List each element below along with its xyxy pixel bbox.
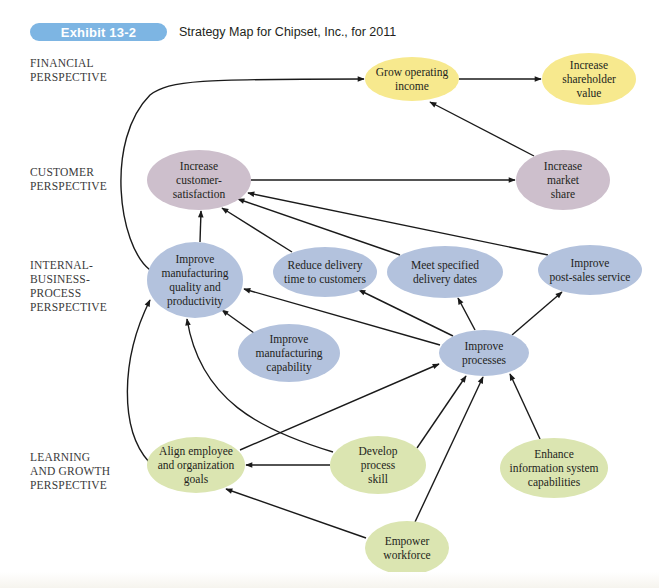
node-label-line: Align employee	[159, 445, 233, 458]
arrow-improve-manufacturing-capability-to-improve-manufacturing-quality	[222, 310, 254, 333]
node-label-line: workforce	[383, 549, 430, 561]
node-label-line: process	[361, 459, 396, 472]
node-label-line: Improve	[571, 257, 610, 270]
arrow-improve-post-sales-service-to-increase-customer-satisfaction	[248, 193, 548, 255]
node-improve-processes: Improveprocesses	[439, 330, 529, 376]
node-label-line: Improve	[465, 340, 504, 353]
node-label-line: Increase	[180, 160, 218, 172]
node-label-line: Empower	[385, 535, 430, 548]
node-label-line: Develop	[359, 445, 398, 458]
node-label-line: Increase	[570, 59, 608, 71]
node-align-employee-goals: Align employeeand organizationgoals	[147, 437, 245, 493]
node-label-line: skill	[368, 473, 388, 485]
arrow-empower-workforce-to-improve-processes	[415, 377, 483, 522]
arrow-improve-processes-to-meet-delivery-dates	[458, 298, 475, 330]
node-label-line: goals	[184, 473, 209, 486]
node-ellipse	[273, 247, 377, 297]
node-label-line: productivity	[167, 295, 223, 308]
node-label-line: processes	[462, 354, 507, 367]
node-empower-workforce: Empowerworkforce	[365, 521, 449, 575]
node-label-line: capabilities	[528, 476, 581, 489]
node-improve-manufacturing-capability: Improvemanufacturingcapability	[238, 324, 340, 382]
arrow-improve-manufacturing-quality-to-increase-customer-satisfaction	[200, 211, 201, 242]
node-label-line: value	[577, 87, 602, 99]
node-label-line: manufacturing	[161, 267, 228, 280]
node-label-line: quality and	[169, 281, 221, 294]
node-label-line: Enhance	[534, 448, 574, 460]
node-label-line: Reduce delivery	[287, 259, 362, 272]
node-label-line: time to customers	[284, 273, 366, 285]
node-label-line: customer-	[176, 174, 222, 186]
node-label-line: delivery dates	[413, 273, 478, 286]
arrow-increase-market-share-to-grow-operating-income	[430, 102, 534, 156]
node-ellipse	[538, 245, 642, 295]
strategy-map-diagram: Grow operatingincomeIncreaseshareholderv…	[0, 0, 659, 588]
node-increase-market-share: Increasemarketshare	[516, 150, 610, 210]
node-label-line: Improve	[176, 253, 215, 266]
node-ellipse	[439, 330, 529, 376]
node-label-line: Meet specified	[411, 259, 479, 272]
node-meet-delivery-dates: Meet specifieddelivery dates	[387, 246, 503, 298]
node-label-line: capability	[266, 361, 312, 374]
node-improve-post-sales-service: Improvepost-sales service	[538, 245, 642, 295]
node-increase-shareholder-value: Increaseshareholdervalue	[542, 53, 636, 105]
node-develop-process-skill: Developprocessskill	[330, 436, 426, 494]
node-enhance-information-system: Enhanceinformation systemcapabilities	[500, 438, 608, 498]
node-label-line: market	[547, 174, 580, 186]
node-label-line: share	[551, 188, 575, 200]
node-label-line: income	[395, 80, 429, 92]
node-label-line: Improve	[270, 333, 309, 346]
node-label-line: satisfaction	[173, 188, 226, 200]
node-improve-manufacturing-quality: Improvemanufacturingquality andproductiv…	[147, 242, 243, 318]
node-label-line: post-sales service	[550, 271, 631, 284]
node-label-line: Increase	[544, 160, 582, 172]
node-reduce-delivery-time: Reduce deliverytime to customers	[273, 247, 377, 297]
arrow-enhance-information-system-to-improve-processes	[510, 374, 540, 439]
arrow-improve-processes-to-improve-post-sales-service	[512, 292, 562, 335]
nodes-layer: Grow operatingincomeIncreaseshareholderv…	[147, 53, 642, 575]
node-label-line: information system	[509, 462, 598, 475]
node-label-line: manufacturing	[255, 347, 322, 360]
arrow-empower-workforce-to-align-employee-goals	[226, 489, 366, 538]
node-label-line: Grow operating	[376, 66, 449, 79]
page-bottom-edge	[0, 572, 659, 588]
node-label-line: and organization	[158, 459, 235, 472]
arrow-develop-process-skill-to-improve-processes	[417, 376, 466, 448]
node-grow-operating-income: Grow operatingincome	[365, 57, 459, 101]
arrow-align-employee-goals-to-improve-manufacturing-quality	[127, 300, 150, 462]
node-ellipse	[365, 521, 449, 575]
node-ellipse	[387, 246, 503, 298]
node-label-line: shareholder	[562, 73, 616, 85]
node-increase-customer-satisfaction: Increasecustomer-satisfaction	[147, 150, 251, 210]
node-ellipse	[365, 57, 459, 101]
